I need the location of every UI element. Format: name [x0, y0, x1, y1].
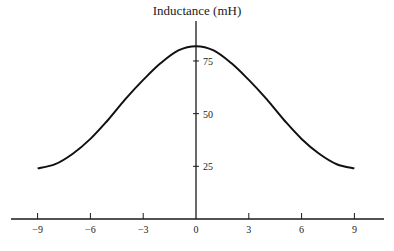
- x-tick-label: 9: [352, 224, 357, 235]
- y-tick-label: 25: [203, 161, 213, 172]
- x-tick-label: −3: [138, 224, 149, 235]
- inductance-chart: Inductance (mH) −9−6−30369 255075: [0, 0, 394, 251]
- y-tick-label: 50: [203, 109, 213, 120]
- x-tick-label: 3: [246, 224, 251, 235]
- x-tick-label: 6: [299, 224, 304, 235]
- x-tick-label: 0: [194, 224, 199, 235]
- x-ticks: −9−6−30369: [32, 213, 357, 235]
- y-tick-label: 75: [203, 56, 213, 67]
- x-tick-label: −9: [32, 224, 43, 235]
- y-axis-title: Inductance (mH): [153, 3, 241, 18]
- x-tick-label: −6: [85, 224, 96, 235]
